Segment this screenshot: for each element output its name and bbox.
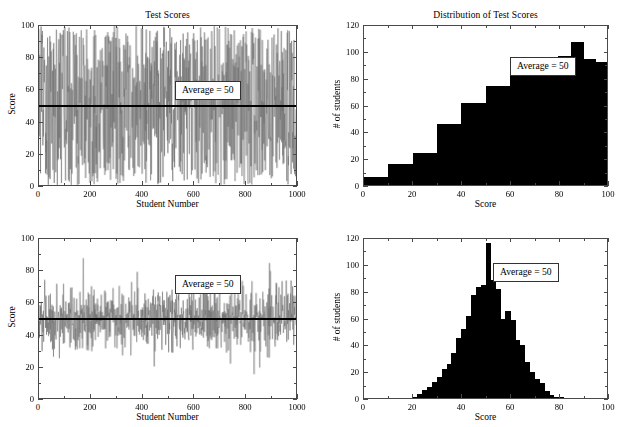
- plot-area-bottom-left: [38, 238, 297, 399]
- ytick-right-bl-40: [293, 335, 297, 336]
- ytick-minor-tr-90: [605, 65, 608, 66]
- xtick-top-tr-100: [608, 25, 609, 29]
- xtick-minor-br-10: [388, 396, 389, 399]
- xtick-top-bl-400: [142, 238, 143, 242]
- ytick-minor-tl-10: [38, 170, 41, 171]
- panel-top-right: Distribution of Test Scores Average = 50…: [313, 0, 627, 214]
- panel-title-top-right: Distribution of Test Scores: [363, 10, 608, 20]
- yticklabel-br-0: 0: [337, 394, 359, 404]
- xtick-minor-tr-70: [535, 25, 536, 28]
- ytick-minor-tr-30: [363, 146, 366, 147]
- xtick-tr-80: [559, 181, 560, 186]
- ytick-minor-br-110: [363, 251, 366, 252]
- ytick-right-tl-20: [293, 154, 297, 155]
- ytick-bl-0: [38, 399, 43, 400]
- ytick-right-tl-80: [293, 57, 297, 58]
- xticklabel-bl-600: 600: [187, 402, 200, 412]
- ytick-right-br-0: [604, 399, 608, 400]
- ytick-right-tr-60: [604, 106, 608, 107]
- figure-canvas: Test Scores Average = 50 Student Number …: [0, 0, 627, 427]
- ytick-tr-0: [363, 186, 368, 187]
- xtick-br-80: [559, 394, 560, 399]
- xtick-tl-800: [245, 181, 246, 186]
- xtick-minor-br-50: [486, 238, 487, 241]
- ytick-minor-bl-10: [294, 383, 297, 384]
- panel-bottom-right: Average = 50 Score # of students 0204060…: [313, 213, 627, 427]
- xtick-minor-tr-90: [584, 25, 585, 28]
- ytick-right-bl-20: [293, 367, 297, 368]
- xticklabel-tl-800: 800: [239, 189, 252, 199]
- ytick-minor-br-110: [605, 251, 608, 252]
- ytick-tl-0: [38, 186, 43, 187]
- yticklabel-tl-40: 40: [12, 117, 34, 127]
- ytick-right-tr-20: [604, 159, 608, 160]
- xticklabel-tr-40: 40: [457, 189, 466, 199]
- ytick-minor-tr-10: [363, 173, 366, 174]
- xtick-br-20: [412, 394, 413, 399]
- ytick-br-0: [363, 399, 368, 400]
- xtick-minor-tr-50: [486, 183, 487, 186]
- xtick-bl-400: [142, 394, 143, 399]
- xtick-top-br-100: [608, 238, 609, 242]
- ytick-br-100: [363, 265, 368, 266]
- ytick-right-tl-60: [293, 89, 297, 90]
- xticklabel-tr-100: 100: [602, 189, 615, 199]
- panel-bottom-left: Average = 50 Student Number Score 020040…: [0, 213, 314, 427]
- ytick-tr-40: [363, 132, 368, 133]
- xtick-top-tl-1000: [297, 25, 298, 29]
- annotation-average-bottom-right: Average = 50: [493, 263, 559, 282]
- xtick-minor-tr-10: [388, 183, 389, 186]
- xticklabel-tl-600: 600: [187, 189, 200, 199]
- xtick-minor-br-30: [437, 238, 438, 241]
- xaxis-label-top-right: Score: [363, 199, 608, 209]
- ytick-minor-tl-90: [38, 41, 41, 42]
- ytick-br-120: [363, 238, 368, 239]
- xticklabel-bl-1000: 1000: [288, 402, 305, 412]
- ytick-right-bl-0: [293, 399, 297, 400]
- ytick-minor-tl-70: [294, 73, 297, 74]
- ytick-minor-br-10: [605, 386, 608, 387]
- ytick-minor-tr-110: [363, 38, 366, 39]
- xtick-top-bl-1000: [297, 238, 298, 242]
- plot-area-bottom-right: [363, 238, 608, 399]
- ytick-right-br-60: [604, 319, 608, 320]
- xtick-br-40: [461, 394, 462, 399]
- xtick-minor-tl-300: [116, 183, 117, 186]
- ytick-tl-60: [38, 89, 43, 90]
- xtick-minor-br-70: [535, 238, 536, 241]
- ytick-minor-bl-30: [38, 351, 41, 352]
- ytick-right-tl-40: [293, 122, 297, 123]
- ytick-minor-tl-90: [294, 41, 297, 42]
- ytick-right-bl-100: [293, 238, 297, 239]
- xticklabel-tl-400: 400: [135, 189, 148, 199]
- ytick-right-tr-40: [604, 132, 608, 133]
- xtick-bl-200: [90, 394, 91, 399]
- ytick-minor-tr-10: [605, 173, 608, 174]
- ytick-tr-80: [363, 79, 368, 80]
- xtick-bl-800: [245, 394, 246, 399]
- yticklabel-br-40: 40: [337, 340, 359, 350]
- ytick-bl-60: [38, 302, 43, 303]
- ytick-tr-120: [363, 25, 368, 26]
- xtick-minor-tr-70: [535, 183, 536, 186]
- ytick-tr-100: [363, 52, 368, 53]
- xticklabel-bl-800: 800: [239, 402, 252, 412]
- xtick-minor-tr-90: [584, 183, 585, 186]
- yticklabel-tl-0: 0: [12, 181, 34, 191]
- yticklabel-bl-0: 0: [12, 394, 34, 404]
- hist-bar-tr-8: [461, 103, 474, 185]
- xticklabel-tr-0: 0: [361, 189, 365, 199]
- xtick-minor-tr-10: [388, 25, 389, 28]
- ytick-minor-bl-70: [38, 286, 41, 287]
- histogram-bars-bottom-right: [364, 239, 607, 398]
- hist-bar-tr-14: [534, 63, 547, 185]
- ytick-minor-br-30: [363, 359, 366, 360]
- ytick-tl-100: [38, 25, 43, 26]
- xticklabel-tr-60: 60: [506, 189, 515, 199]
- xtick-minor-bl-700: [219, 396, 220, 399]
- xtick-minor-bl-300: [116, 238, 117, 241]
- ytick-tl-80: [38, 57, 43, 58]
- ytick-bl-100: [38, 238, 43, 239]
- hist-bar-tr-11: [498, 86, 511, 185]
- xtick-minor-br-90: [584, 396, 585, 399]
